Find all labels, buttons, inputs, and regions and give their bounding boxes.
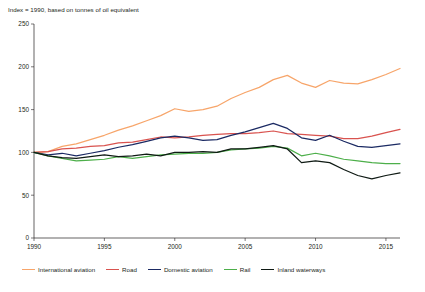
legend-item-1[interactable]: Road <box>106 266 137 273</box>
legend-swatch-icon <box>106 269 119 270</box>
legend-label: Road <box>122 266 137 273</box>
legend-swatch-icon <box>261 269 274 270</box>
chart-subtitle: Index = 1990, based on tonnes of oil equ… <box>8 6 139 13</box>
legend-item-2[interactable]: Domestic aviation <box>148 266 213 273</box>
y-axis: 050100150200250 <box>18 20 34 241</box>
y-tick-label: 100 <box>18 149 29 156</box>
legend-label: Rail <box>240 266 251 273</box>
x-tick-label: 2015 <box>379 243 394 250</box>
legend-swatch-icon <box>148 269 161 270</box>
x-tick-label: 1995 <box>97 243 112 250</box>
legend-item-4[interactable]: Inland waterways <box>261 266 325 273</box>
y-tick-label: 0 <box>25 234 29 241</box>
legend-label: International aviation <box>38 266 95 273</box>
legend-label: Domestic aviation <box>164 266 213 273</box>
legend-swatch-icon <box>224 269 237 270</box>
series-line-4 <box>34 146 400 179</box>
y-tick-label: 250 <box>18 20 29 27</box>
x-tick-label: 1990 <box>27 243 42 250</box>
x-tick-label: 2000 <box>168 243 183 250</box>
legend-swatch-icon <box>22 269 35 270</box>
series-line-1 <box>34 129 400 152</box>
plot-svg: 050100150200250 199019952000200520102015 <box>0 16 425 256</box>
y-tick-label: 50 <box>22 192 30 199</box>
plot-area: 050100150200250 199019952000200520102015 <box>0 16 425 256</box>
series-lines <box>34 69 400 179</box>
series-line-3 <box>34 146 400 163</box>
legend-label: Inland waterways <box>277 266 325 273</box>
x-axis: 199019952000200520102015 <box>27 238 400 250</box>
y-tick-label: 200 <box>18 63 29 70</box>
legend-item-3[interactable]: Rail <box>224 266 251 273</box>
y-tick-label: 150 <box>18 106 29 113</box>
x-tick-label: 2010 <box>308 243 323 250</box>
legend-item-0[interactable]: International aviation <box>22 266 95 273</box>
chart-container: Index = 1990, based on tonnes of oil equ… <box>0 0 425 292</box>
chart-legend: International aviationRoadDomestic aviat… <box>0 262 425 276</box>
footer-strip <box>0 283 425 292</box>
x-tick-label: 2005 <box>238 243 253 250</box>
